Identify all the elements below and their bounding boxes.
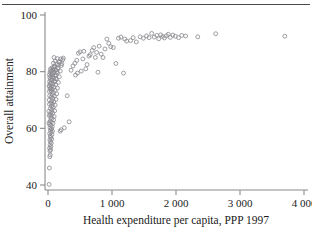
y-axis-ticks: 406080100	[21, 9, 46, 191]
data-point	[84, 67, 88, 71]
data-point	[109, 45, 113, 49]
data-point	[47, 182, 51, 186]
data-point	[157, 37, 161, 41]
data-point	[81, 57, 85, 61]
data-point	[134, 40, 138, 44]
data-point	[62, 126, 66, 130]
x-axis-ticks: 01 0002 0003 0004 000	[45, 190, 312, 209]
data-points-group	[47, 31, 287, 186]
data-point	[283, 34, 287, 38]
data-point	[214, 32, 218, 36]
data-point	[168, 35, 172, 39]
scatter-plot-canvas: 406080100 01 0002 0003 0004 000 Health e…	[0, 0, 312, 231]
x-tick-label: 0	[45, 197, 51, 209]
data-point	[105, 37, 109, 41]
data-point	[75, 58, 79, 62]
data-point	[196, 35, 200, 39]
x-axis-title: Health expenditure per capita, PPP 1997	[83, 214, 269, 227]
top-divider-rule	[2, 4, 310, 5]
data-point	[180, 33, 184, 37]
data-point	[93, 56, 97, 60]
data-point	[67, 120, 71, 124]
y-tick-label: 40	[26, 179, 38, 191]
data-point	[95, 50, 99, 54]
data-point	[47, 166, 51, 170]
data-point	[184, 34, 188, 38]
data-point	[82, 49, 86, 53]
y-axis-title: Overall attainment	[3, 57, 15, 144]
data-point	[111, 46, 115, 50]
data-point	[85, 63, 89, 67]
data-point	[131, 36, 135, 40]
y-tick-label: 100	[21, 9, 38, 21]
y-tick-label: 80	[26, 65, 38, 77]
data-point	[101, 56, 105, 60]
x-tick-label: 1 000	[100, 197, 125, 209]
data-point	[122, 71, 126, 75]
x-tick-label: 4 000	[292, 197, 312, 209]
x-tick-label: 3 000	[228, 197, 253, 209]
data-point	[65, 94, 69, 98]
data-point	[103, 47, 107, 51]
data-point	[69, 68, 73, 72]
scatter-chart-figure: 406080100 01 0002 0003 0004 000 Health e…	[0, 0, 312, 231]
data-point	[114, 62, 118, 66]
data-point	[97, 44, 101, 48]
y-tick-label: 60	[26, 122, 38, 134]
data-point	[79, 69, 83, 73]
data-point	[96, 70, 100, 74]
x-tick-label: 2 000	[164, 197, 189, 209]
data-point	[150, 31, 154, 35]
